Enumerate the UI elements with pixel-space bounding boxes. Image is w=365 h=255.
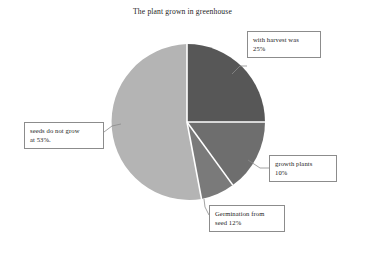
callout-harvest-line1: with harvest was: [253, 35, 316, 44]
callout-seeds-do-not-grow: seeds do not grow at 53%.: [24, 122, 104, 149]
callout-harvest-line2: 25%: [253, 44, 316, 53]
callout-growth-line2: 10%: [275, 168, 332, 177]
callout-growth-plants: growth plants 10%: [269, 155, 337, 182]
callout-growth-line1: growth plants: [275, 159, 332, 168]
callout-seeds-line2: at 53%.: [30, 135, 99, 144]
pie-chart-screenshot: The plant grown in greenhouse: [0, 0, 365, 255]
callout-seeds-line1: seeds do not grow: [30, 126, 99, 135]
callout-germination-from-seed: Germination from seed 12%: [209, 205, 285, 232]
callout-germination-line2: seed 12%: [215, 218, 280, 227]
callout-with-harvest: with harvest was 25%: [247, 31, 321, 58]
callout-germination-line1: Germination from: [215, 209, 280, 218]
